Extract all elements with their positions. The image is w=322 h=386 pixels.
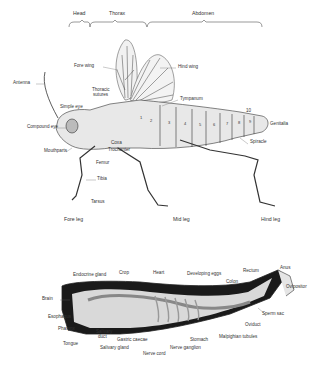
label-ovipositor: Ovipositor [286, 284, 307, 289]
label-developing-eggs: Developing eggs [187, 271, 221, 276]
region-abdomen: Abdomen [192, 11, 214, 16]
label-coxa: Coxa [111, 140, 122, 145]
label-crop: Crop [119, 270, 129, 275]
label-hind-wing: Hind wing [178, 64, 198, 69]
label-rectum: Rectum [243, 268, 259, 273]
label-colon: Colon [226, 279, 238, 284]
label-heart: Heart [153, 270, 164, 275]
label-tibia: Tibia [97, 176, 107, 181]
label-nerve-cord: Nerve cord [143, 351, 165, 356]
caption-hind-leg: Hind leg [261, 217, 280, 222]
caption-mid-leg: Mid leg [173, 217, 190, 222]
label-nerve-ganglion: Nerve ganglion [170, 345, 201, 350]
label-spiracle: Spiracle [250, 139, 267, 144]
caption-fore-leg: Fore leg [64, 217, 83, 222]
compound-eye [66, 119, 78, 133]
label-stomach: Stomach [190, 337, 208, 342]
label-genitalia: Genitalia [270, 121, 288, 126]
label-anus: Anus [280, 265, 290, 270]
label-antenna: Antenna [13, 80, 30, 85]
label-fore-wing: Fore wing [74, 63, 94, 68]
label-femur: Femur [96, 160, 109, 165]
label-gastric-caecae: Gastric caecae [117, 337, 148, 342]
label-oviduct: Oviduct [245, 322, 261, 327]
label-duct: duct [98, 334, 107, 339]
label-tarsus: Tarsus [91, 199, 105, 204]
label-tongue: Tongue [63, 341, 78, 346]
anatomy-drawing: 234 567 891 [0, 0, 322, 386]
region-thorax: Thorax [109, 11, 125, 16]
label-mouthparts: Mouthparts [44, 148, 67, 153]
label-sutures: sutures [93, 92, 108, 97]
label-pharynx: Pharynx [58, 326, 75, 331]
antenna [44, 72, 58, 118]
label-endocrine-gland: Endocrine gland [73, 272, 106, 277]
label-malpighian-tubules: Malpighian tubules [219, 334, 257, 339]
region-braces [69, 20, 262, 27]
label-salivary-gland: Salivary gland [100, 345, 129, 350]
label-tympanum: Tympanum [180, 96, 203, 101]
region-head: Head [73, 11, 85, 16]
label-segment-10: 10 [246, 108, 251, 113]
label-trochanter: Trochanter [108, 147, 130, 152]
label-sperm-sac: Sperm sac [262, 311, 284, 316]
label-esophagus: Esophagus [48, 314, 71, 319]
label-simple-eye: Simple eye [60, 104, 83, 109]
label-compound-eye: Compound eye [27, 124, 58, 129]
label-brain: Brain [42, 296, 53, 301]
external-body [56, 100, 268, 149]
legs [72, 140, 275, 206]
